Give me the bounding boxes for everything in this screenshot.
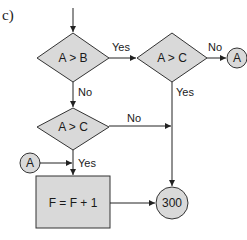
terminal-300: 300 — [156, 187, 188, 219]
decision-a-gt-c-top-text: A > C — [157, 51, 187, 65]
connector-a-in-text: A — [26, 156, 34, 170]
decision-a-gt-c-top: A > C — [137, 33, 207, 82]
process-f-increment-text: F = F + 1 — [49, 196, 98, 210]
edge-d2-yes-label: Yes — [176, 86, 194, 98]
terminal-300-text: 300 — [162, 196, 182, 210]
edge-d3-no-label: No — [127, 112, 141, 124]
connector-a-out-text: A — [233, 51, 241, 65]
connector-a-in: A — [20, 153, 40, 173]
decision-a-gt-b-text: A > B — [58, 51, 87, 65]
edge-d3-yes-label: Yes — [78, 157, 96, 169]
decision-a-gt-b: A > B — [37, 33, 109, 82]
edge-d1-no-label: No — [78, 86, 92, 98]
edge-d2-no-label: No — [208, 41, 222, 53]
connector-a-out: A — [227, 48, 247, 68]
decision-a-gt-c-lower-text: A > C — [58, 120, 88, 134]
edge-d1-yes-label: Yes — [112, 41, 130, 53]
panel-label: c) — [2, 7, 14, 24]
flowchart: c) A > B Yes A > C No A Yes No A > C No … — [0, 0, 247, 240]
process-f-increment: F = F + 1 — [36, 176, 110, 228]
decision-a-gt-c-lower: A > C — [37, 108, 109, 150]
